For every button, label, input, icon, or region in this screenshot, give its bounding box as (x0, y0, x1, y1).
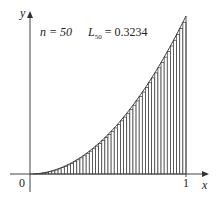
x-axis-arrow-icon (202, 171, 209, 177)
rectangle (74, 162, 77, 174)
rectangle (92, 149, 95, 174)
rectangle (64, 166, 67, 174)
rectangle (145, 87, 148, 174)
rectangle (124, 117, 127, 174)
rectangle (58, 169, 61, 174)
origin-label: 0 (19, 176, 25, 191)
rectangle (164, 57, 167, 174)
rectangle (180, 28, 183, 174)
rectangle (96, 146, 99, 174)
y-axis-label: y (20, 6, 25, 21)
n-label: n = 50 (40, 25, 72, 39)
rectangle (108, 135, 111, 175)
rectangle (61, 168, 64, 174)
rectangle (155, 73, 158, 174)
rectangle (55, 170, 58, 174)
rectangle (102, 141, 105, 174)
rectangle (167, 52, 170, 174)
rectangle (136, 101, 139, 174)
rectangle (127, 113, 130, 174)
annotation: n = 50 L50 = 0.3234 (40, 25, 148, 41)
rectangle (161, 63, 164, 174)
rectangle (71, 163, 74, 174)
x-tick-label-1: 1 (183, 176, 189, 191)
rectangle (114, 128, 117, 174)
rectangle (99, 143, 102, 174)
rectangle (77, 160, 80, 174)
rectangle (130, 109, 133, 174)
L-label: L (88, 25, 95, 39)
rectangle (174, 40, 177, 174)
rectangle (80, 158, 83, 174)
rectangle (86, 154, 89, 174)
y-axis-arrow-icon (27, 11, 33, 18)
L-subscript: 50 (95, 33, 102, 41)
rectangle (120, 121, 123, 174)
rectangle (152, 78, 155, 174)
rectangle (177, 34, 180, 174)
rectangle (139, 97, 142, 174)
rectangle (111, 131, 114, 174)
rectangle (183, 22, 186, 174)
rectangle (170, 46, 173, 174)
L-value: = 0.3234 (102, 25, 148, 39)
rectangle (142, 92, 145, 174)
rectangle (105, 138, 108, 174)
rectangle (133, 105, 136, 174)
rectangle (149, 83, 152, 174)
rectangle (117, 124, 120, 174)
rectangle (158, 68, 161, 174)
rectangle (67, 165, 70, 174)
rectangle (89, 151, 92, 174)
rectangle (83, 156, 86, 174)
x-axis-label: x (202, 178, 207, 193)
